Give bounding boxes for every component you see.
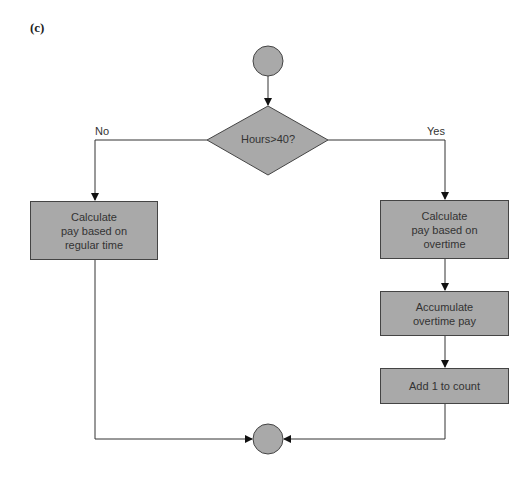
- count-box: Add 1 to count: [380, 368, 509, 404]
- start-node: [253, 46, 283, 76]
- accumulate-box: Accumulate overtime pay: [380, 291, 509, 336]
- decision-label: Hours>40?: [207, 133, 329, 145]
- branch-no-label: No: [95, 125, 109, 137]
- end-node: [253, 424, 283, 454]
- overtime-box: Calculate pay based on overtime: [380, 200, 509, 259]
- regular-time-box: Calculate pay based on regular time: [30, 201, 158, 260]
- branch-yes-label: Yes: [427, 125, 445, 137]
